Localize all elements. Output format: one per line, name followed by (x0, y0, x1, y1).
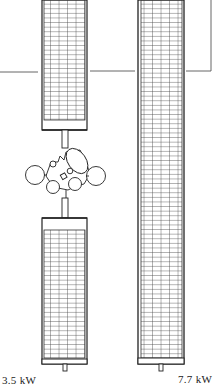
right-solar-wing (138, 0, 184, 371)
left-lower-solar-wing (42, 218, 87, 371)
power-label-left: 3.5 kW (2, 374, 36, 386)
lower-boom (62, 190, 68, 218)
mount-stub (63, 364, 67, 371)
mount-stub (159, 364, 163, 371)
left-upper-solar-wing (42, 0, 87, 130)
small-antenna-1 (50, 161, 56, 167)
dish-antenna-left (26, 166, 45, 185)
dish-antenna-bottom-right (69, 178, 82, 191)
dish-antenna-bottom-left (47, 181, 60, 194)
small-antenna-2 (67, 168, 73, 174)
satellite-diagram (0, 0, 214, 392)
satellite-body (26, 144, 106, 193)
upper-boom (62, 130, 68, 148)
power-label-right: 7.7 kW (178, 373, 212, 385)
dish-antenna-right (87, 167, 106, 186)
